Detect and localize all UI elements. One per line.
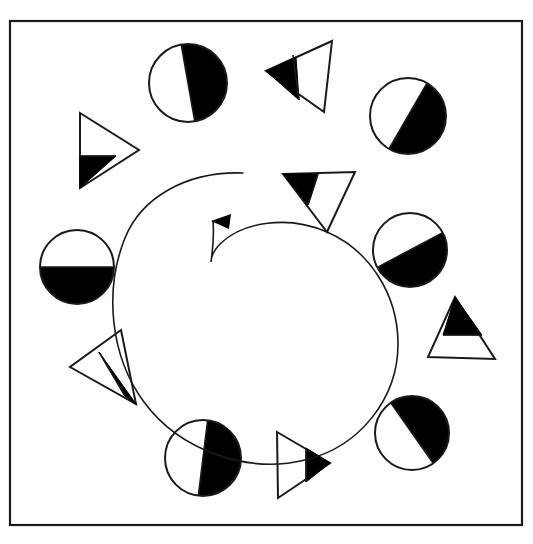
figure-root bbox=[0, 0, 533, 544]
figure-canvas bbox=[0, 0, 533, 544]
